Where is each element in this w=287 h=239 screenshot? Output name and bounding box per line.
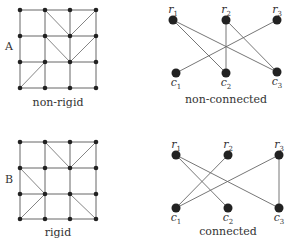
grid-node	[43, 60, 48, 65]
grid-diagonal-brace	[45, 36, 70, 62]
grid-node	[43, 34, 48, 39]
column-node-label: c3	[274, 211, 285, 226]
grid-diagonal-brace	[70, 142, 96, 168]
diagram-canvas: A B non-rigid rigid non-connected connec…	[0, 0, 287, 239]
column-node-label: c2	[221, 76, 232, 91]
grid-diagonal-brace	[20, 168, 45, 194]
row-label-a: A	[5, 40, 13, 53]
grid-node	[68, 217, 73, 222]
bipartite-edge	[173, 20, 226, 73]
grid-node	[43, 86, 48, 91]
bipartite-edge	[176, 20, 277, 73]
grid-node	[43, 8, 48, 13]
grid-node	[94, 60, 99, 65]
row-node-label: r3	[274, 138, 284, 153]
grid-node	[18, 166, 23, 171]
bipartite-a-caption: non-connected	[185, 93, 267, 106]
grid-node	[18, 192, 23, 197]
grid-node	[68, 166, 73, 171]
grid-node	[68, 86, 73, 91]
grid-node	[94, 140, 99, 145]
column-node-label: c1	[171, 76, 182, 91]
grid-node	[18, 34, 23, 39]
grid-node	[18, 140, 23, 145]
grid-node	[43, 217, 48, 222]
row-node-label: r3	[272, 3, 282, 18]
grid-node	[68, 192, 73, 197]
grid-diagonal-brace	[70, 194, 96, 219]
grid-node	[68, 34, 73, 39]
grid-diagonal-brace	[70, 36, 96, 62]
grid-diagonal-brace	[20, 62, 45, 88]
grid-b-caption: rigid	[45, 226, 71, 239]
grid-diagonal-brace	[45, 142, 70, 168]
grid-node	[68, 8, 73, 13]
diagram-graphics	[0, 0, 287, 239]
bipartite-edge	[226, 20, 277, 72]
grid-node	[94, 166, 99, 171]
grid-node	[43, 192, 48, 197]
grid-diagonal-brace	[45, 10, 70, 36]
grid-node	[18, 217, 23, 222]
column-node-label: c3	[272, 75, 283, 90]
row-label-b: B	[5, 173, 13, 186]
grid-node	[18, 86, 23, 91]
grid-diagonal-brace	[20, 194, 45, 219]
bipartite-b-caption: connected	[199, 225, 257, 238]
row-node-label: r1	[171, 138, 181, 153]
grid-node	[43, 140, 48, 145]
column-node-label: c2	[223, 211, 234, 226]
grid-node	[94, 217, 99, 222]
grid-node	[94, 34, 99, 39]
grid-a-caption: non-rigid	[33, 96, 84, 109]
row-node-label: r2	[223, 138, 233, 153]
grid-node	[94, 192, 99, 197]
grid-node	[68, 140, 73, 145]
grid-node	[94, 8, 99, 13]
column-node-label: c1	[171, 211, 182, 226]
row-node-label: r2	[221, 3, 231, 18]
grid-diagonal-brace	[70, 10, 96, 36]
row-node-label: r1	[168, 3, 178, 18]
grid-node	[43, 166, 48, 171]
grid-node	[18, 8, 23, 13]
grid-node	[18, 60, 23, 65]
grid-node	[68, 60, 73, 65]
grid-node	[94, 86, 99, 91]
